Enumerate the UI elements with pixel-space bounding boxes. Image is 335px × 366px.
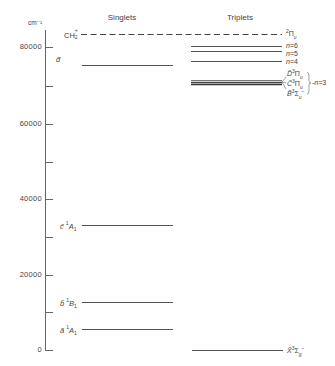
energy-level-diagram: cm⁻¹ 80000 60000 40000 20000 0 Singlets …: [0, 0, 335, 366]
ion-term-label: 2Πu: [286, 29, 297, 40]
singlet-c-label: c̃ 1A1: [60, 221, 76, 232]
singlet-a-label: ã 1A1: [60, 325, 77, 336]
triplet-n6-label: n=6: [286, 42, 298, 49]
singlets-title: Singlets: [108, 14, 136, 22]
axis-ticks: [45, 48, 53, 351]
triplet-levels: [191, 47, 283, 351]
tick-label-0: 0: [4, 346, 42, 354]
energy-axis: [0, 0, 335, 366]
singlet-d-label: d̃: [56, 56, 60, 64]
triplet-n3-label: -n=3: [312, 79, 326, 86]
tick-label-20000: 20000: [4, 271, 42, 279]
ion-label-text: CH: [64, 31, 75, 40]
singlet-b-label: b̃ 1B1: [60, 298, 77, 309]
triplet-B-label: B̃3Σu−: [287, 89, 304, 100]
triplet-n5-label: n=5: [286, 50, 298, 57]
triplet-n4-label: n=4: [286, 58, 298, 65]
ion-sub: 2: [75, 35, 78, 40]
ion-sup: +: [75, 28, 78, 33]
ion-label: CH+2: [64, 30, 80, 40]
triplets-title: Triplets: [227, 14, 253, 22]
tick-label-40000: 40000: [4, 195, 42, 203]
axis-unit-label: cm⁻¹: [28, 20, 42, 27]
triplet-X-label: X̃3Σg−: [287, 346, 304, 357]
singlet-levels: [82, 66, 173, 330]
tick-label-80000: 80000: [4, 43, 42, 51]
tick-label-60000: 60000: [4, 120, 42, 128]
